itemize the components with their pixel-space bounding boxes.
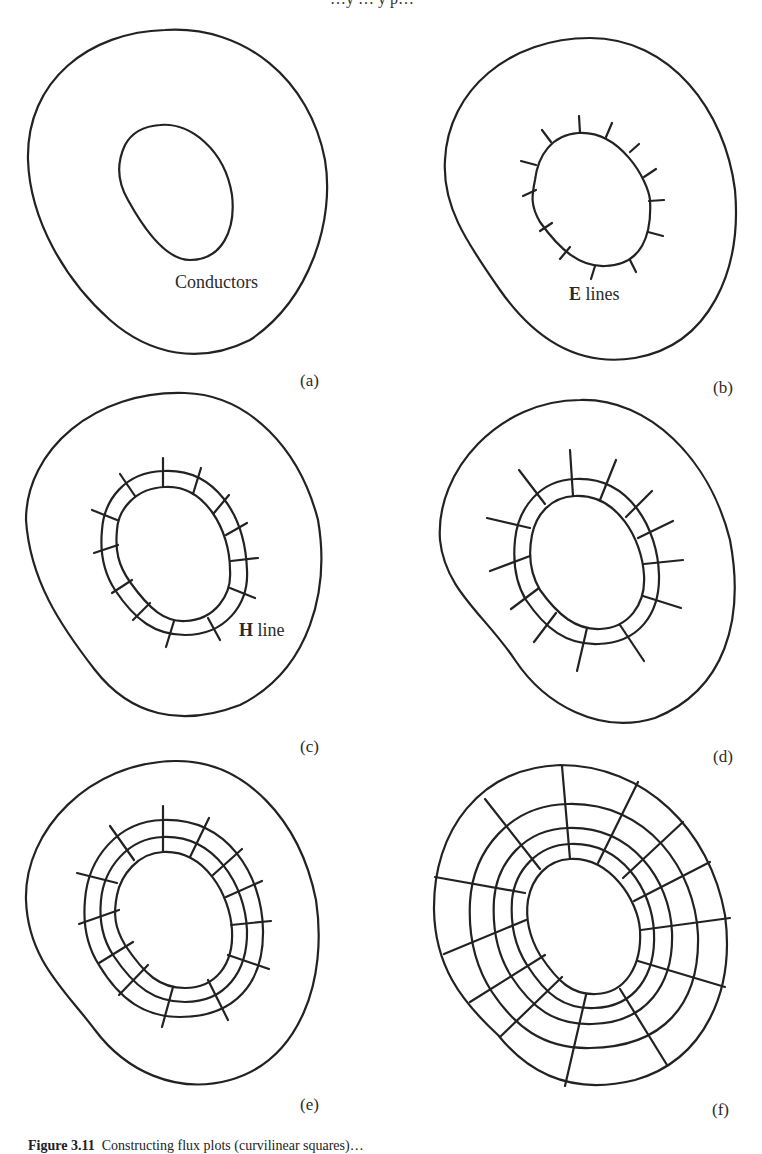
h-line-1: [101, 471, 247, 635]
e-symbol: E: [569, 284, 581, 304]
e-lines-text: lines: [581, 284, 620, 304]
caption-figure-number: Figure 3.11: [28, 1138, 95, 1153]
caption-text: Constructing flux plots (curvilinear squ…: [102, 1138, 364, 1153]
panel-label-d: (d): [713, 747, 733, 767]
panel-c-drawing: [26, 393, 321, 716]
h-line-1: [100, 837, 247, 1002]
outer-conductor: [26, 761, 319, 1084]
e-line-stubs: [487, 450, 683, 671]
inner-conductor: [119, 125, 233, 260]
h-line-1: [514, 479, 659, 644]
panel-a-drawing: [28, 30, 327, 354]
h-symbol: H: [239, 620, 253, 640]
outer-conductor: [26, 393, 321, 716]
panel-label-c: (c): [300, 737, 319, 757]
inner-conductor: [116, 487, 230, 621]
h-line-annotation: H line: [239, 620, 285, 641]
inner-conductor: [527, 859, 640, 994]
outer-conductor: [28, 30, 327, 354]
e-lines: [435, 766, 730, 1086]
inner-conductor: [533, 133, 651, 266]
panel-label-f: (f): [712, 1100, 729, 1120]
outer-conductor: [445, 38, 736, 360]
panel-d-drawing: [440, 400, 735, 723]
panel-label-b: (b): [713, 378, 733, 398]
conductors-annotation: Conductors: [175, 272, 258, 293]
panel-label-e: (e): [300, 1095, 319, 1115]
outer-conductor: [440, 400, 735, 723]
h-line-text: line: [253, 620, 285, 640]
e-line-stubs: [521, 116, 664, 279]
panel-b-drawing: [445, 38, 736, 360]
panel-label-a: (a): [300, 371, 319, 391]
e-lines-annotation: E lines: [569, 284, 620, 305]
figure-caption: Figure 3.11 Constructing flux plots (cur…: [28, 1138, 364, 1154]
panel-e-drawing: [26, 761, 319, 1084]
panel-f-drawing: [434, 765, 730, 1086]
